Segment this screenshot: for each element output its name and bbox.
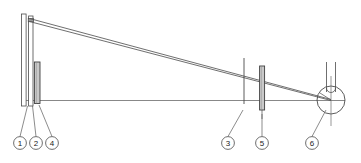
slider-block	[34, 62, 40, 104]
guide-block-5	[260, 66, 265, 119]
leader-line-4	[39, 105, 52, 137]
cable-line-lower	[30, 22, 332, 101]
technical-drawing-canvas: 1 2 4 3 5 6	[0, 0, 361, 163]
mast-inner-column	[29, 16, 33, 106]
leader-line-1	[20, 106, 28, 137]
callout-balloon-1[interactable]: 1	[14, 137, 27, 150]
assembly-diagram: 1 2 4 3 5 6	[0, 0, 361, 163]
leader-line-3	[228, 110, 243, 137]
callout-balloon-4[interactable]: 4	[46, 137, 59, 150]
callout-balloon-5[interactable]: 5	[256, 137, 269, 150]
cable-line-upper	[30, 19, 332, 100]
pulley-assembly	[317, 62, 345, 126]
callout-balloon-2-label: 2	[34, 139, 39, 148]
leader-line-6	[312, 110, 326, 137]
callout-balloon-1-label: 1	[18, 139, 23, 148]
callout-balloon-3-label: 3	[226, 139, 231, 148]
leader-line-2	[33, 106, 37, 137]
mast-outer-column	[22, 14, 27, 106]
callout-balloon-6[interactable]: 6	[306, 137, 319, 150]
callout-balloon-4-label: 4	[50, 139, 55, 148]
callout-balloon-5-label: 5	[260, 139, 265, 148]
callout-balloon-2[interactable]: 2	[30, 137, 43, 150]
callout-balloon-3[interactable]: 3	[222, 137, 235, 150]
callout-leader-lines	[20, 105, 326, 137]
callout-balloon-6-label: 6	[310, 139, 315, 148]
